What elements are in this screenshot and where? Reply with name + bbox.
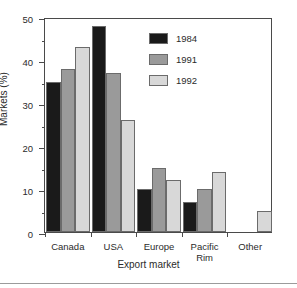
x-tick-mark [136, 232, 137, 237]
bar-1991-canada [61, 69, 76, 232]
y-minor-tick-mark [42, 170, 46, 171]
bar-1984-canada [46, 82, 61, 233]
y-tick-mark [39, 62, 45, 63]
y-tick-label: 0 [7, 229, 33, 240]
chart-legend: 198419911992 [149, 29, 197, 92]
bar-1992-canada [75, 47, 90, 232]
x-tick-mark [91, 232, 92, 237]
legend-item-1992: 1992 [149, 71, 197, 89]
y-minor-tick-mark [42, 41, 46, 42]
legend-label: 1984 [176, 33, 197, 44]
y-tick-label: 20 [7, 143, 33, 154]
y-tick-mark [39, 191, 45, 192]
y-tick-label: 30 [7, 100, 33, 111]
legend-swatch-icon [149, 54, 168, 65]
y-minor-tick-mark [42, 84, 46, 85]
bar-1992-other [257, 211, 272, 233]
y-minor-tick-mark [42, 213, 46, 214]
y-tick-label: 40 [7, 57, 33, 68]
y-tick-mark [39, 105, 45, 106]
x-axis-label-other: Other [238, 242, 262, 253]
x-tick-mark [227, 232, 228, 237]
bar-chart-figure: 01020304050CanadaUSAEuropePacific RimOth… [0, 0, 297, 288]
x-axis-label-europe: Europe [144, 242, 175, 253]
x-axis-title: Export market [0, 259, 297, 270]
bar-1984-pacific-rim [183, 202, 198, 232]
bar-1992-usa [121, 120, 136, 232]
y-tick-label: 10 [7, 186, 33, 197]
bar-1992-europe [166, 180, 181, 232]
bar-1984-usa [92, 26, 107, 232]
x-tick-mark [182, 232, 183, 237]
legend-item-1984: 1984 [149, 29, 197, 47]
x-axis-label-usa: USA [104, 242, 124, 253]
y-tick-label: 50 [7, 14, 33, 25]
legend-item-1991: 1991 [149, 50, 197, 68]
y-tick-mark [39, 148, 45, 149]
legend-swatch-icon [149, 33, 168, 44]
legend-label: 1991 [176, 54, 197, 65]
legend-swatch-icon [149, 75, 168, 86]
bar-1991-europe [152, 168, 167, 233]
bar-1991-usa [106, 73, 121, 232]
bottom-divider [0, 283, 297, 284]
bar-1991-pacific-rim [197, 189, 212, 232]
x-axis-label-canada: Canada [51, 242, 84, 253]
legend-label: 1992 [176, 75, 197, 86]
y-minor-tick-mark [42, 127, 46, 128]
y-axis-title: Markets (%) [0, 72, 9, 126]
y-tick-mark [39, 19, 45, 20]
bar-1992-pacific-rim [212, 172, 227, 232]
x-tick-mark [45, 232, 46, 237]
bar-1984-europe [137, 189, 152, 232]
